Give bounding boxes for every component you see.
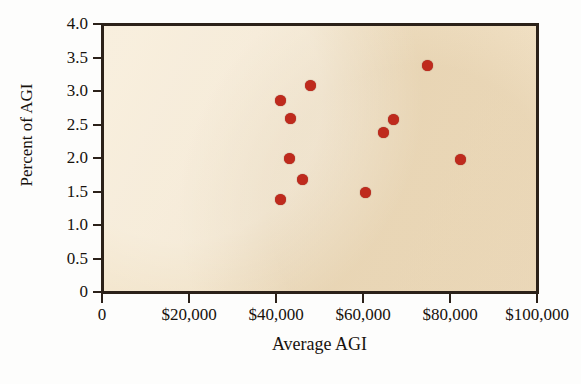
scatter-chart-figure: 00.51.01.52.02.53.03.54.0 0$20,000$40,00…	[0, 0, 581, 384]
x-tick-label-wrap: $100,000	[472, 306, 581, 326]
plot-area	[102, 24, 537, 292]
y-tick-label-wrap: 3.0	[36, 82, 88, 99]
y-tick-mark	[93, 124, 102, 126]
y-tick-mark	[93, 191, 102, 193]
x-tick-label: $100,000	[472, 306, 581, 323]
y-tick-mark	[93, 258, 102, 260]
y-tick-label-wrap: 2.0	[36, 149, 88, 166]
axis-bottom-line	[102, 291, 538, 294]
y-axis-title: Percent of AGI	[17, 55, 37, 215]
x-tick-mark	[101, 293, 103, 303]
y-tick-label-wrap: 1.5	[36, 183, 88, 200]
data-point	[388, 114, 399, 125]
data-point	[455, 154, 466, 165]
y-tick-label: 2.0	[42, 149, 88, 166]
y-tick-label: 0.5	[42, 250, 88, 267]
y-tick-mark	[93, 57, 102, 59]
y-tick-label-wrap: 4.0	[36, 15, 88, 32]
data-point	[378, 127, 389, 138]
x-tick-mark	[275, 293, 277, 303]
y-tick-label: 3.0	[42, 82, 88, 99]
y-tick-label-wrap: 0.5	[36, 250, 88, 267]
axis-right-line	[536, 23, 539, 294]
y-tick-label-wrap: 2.5	[36, 116, 88, 133]
y-tick-label: 4.0	[42, 15, 88, 32]
x-axis-title: Average AGI	[102, 334, 537, 355]
y-tick-label-wrap: 0	[36, 283, 88, 300]
axis-top-line	[102, 23, 538, 26]
y-tick-label: 2.5	[42, 116, 88, 133]
x-tick-mark	[362, 293, 364, 303]
y-tick-mark	[93, 90, 102, 92]
y-tick-mark	[93, 224, 102, 226]
y-tick-label-wrap: 3.5	[36, 49, 88, 66]
data-point	[275, 95, 286, 106]
y-tick-mark	[93, 157, 102, 159]
x-tick-mark	[188, 293, 190, 303]
x-tick-mark	[536, 293, 538, 303]
y-tick-label: 1.5	[42, 183, 88, 200]
data-point	[360, 187, 371, 198]
y-tick-label: 3.5	[42, 49, 88, 66]
y-tick-mark	[93, 23, 102, 25]
plot-background	[102, 24, 537, 292]
x-tick-mark	[449, 293, 451, 303]
y-tick-label-wrap: 1.0	[36, 216, 88, 233]
y-tick-label: 1.0	[42, 216, 88, 233]
y-tick-label: 0	[42, 283, 88, 300]
